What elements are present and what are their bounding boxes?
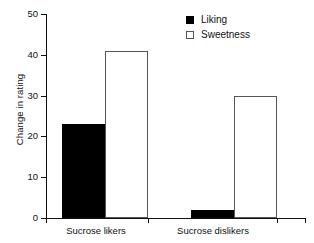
x-axis-tick <box>46 218 47 223</box>
y-axis-tick <box>41 136 46 137</box>
y-axis-tick <box>41 55 46 56</box>
chart-legend: Liking Sweetness <box>186 12 250 42</box>
y-axis-tick-label: 40 <box>0 50 38 60</box>
x-axis-category-label: Sucrose dislikers <box>153 225 273 236</box>
legend-label-liking: Liking <box>201 15 227 25</box>
y-axis-tick-label: 20 <box>0 131 38 141</box>
x-axis-category-label: Sucrose likers <box>36 225 156 236</box>
legend-item-liking: Liking <box>186 12 250 27</box>
legend-label-sweetness: Sweetness <box>201 30 250 40</box>
legend-swatch-filled-square-icon <box>186 16 194 24</box>
x-axis-line <box>46 218 306 219</box>
x-axis-tick <box>305 218 306 223</box>
bar-sweetness-sucrose-dislikers <box>234 96 277 218</box>
legend-swatch-open-square-icon <box>186 31 194 39</box>
bar-liking-sucrose-dislikers <box>191 210 234 218</box>
y-axis-tick <box>41 177 46 178</box>
y-axis-tick <box>41 14 46 15</box>
x-axis-tick <box>148 218 149 223</box>
x-axis-tick <box>277 218 278 223</box>
y-axis-line <box>46 14 47 219</box>
bar-chart-figure: Change in rating 01020304050 Sucrose lik… <box>0 0 314 243</box>
y-axis-tick <box>41 96 46 97</box>
legend-item-sweetness: Sweetness <box>186 27 250 42</box>
bar-liking-sucrose-likers <box>62 124 105 218</box>
bar-sweetness-sucrose-likers <box>105 51 148 218</box>
y-axis-tick-label: 10 <box>0 172 38 182</box>
y-axis-tick-label: 30 <box>0 91 38 101</box>
y-axis-tick-label: 50 <box>0 9 38 19</box>
y-axis-tick-label: 0 <box>0 213 38 223</box>
